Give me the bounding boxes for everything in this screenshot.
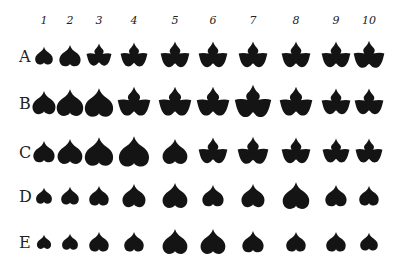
lobed-leaf-icon	[281, 137, 311, 167]
heart-leaf-icon	[32, 140, 56, 164]
lobed-leaf-icon	[321, 41, 351, 71]
lobed-leaf-icon	[238, 41, 268, 71]
lobed-leaf-icon	[279, 86, 313, 120]
heart-leaf-icon	[35, 187, 53, 205]
heart-leaf-icon	[123, 231, 145, 253]
heart-leaf-icon	[161, 182, 189, 210]
lobed-leaf-icon	[86, 43, 112, 69]
column-label: 5	[172, 14, 179, 27]
lobed-leaf-icon	[355, 138, 383, 166]
lobed-leaf-icon	[196, 86, 230, 120]
row-label: A	[19, 47, 31, 66]
heart-leaf-icon	[31, 90, 57, 116]
heart-leaf-icon	[201, 184, 225, 208]
column-label: 6	[210, 14, 217, 27]
heart-leaf-icon	[241, 230, 265, 254]
column-label: 7	[250, 14, 257, 27]
lobed-leaf-icon	[237, 136, 269, 168]
row-label: C	[19, 143, 31, 162]
lobed-leaf-icon	[354, 88, 384, 118]
heart-leaf-icon	[281, 181, 311, 211]
lobed-leaf-icon	[322, 138, 350, 166]
heart-leaf-icon	[36, 234, 52, 250]
heart-leaf-icon	[88, 231, 110, 253]
heart-leaf-icon	[161, 138, 189, 166]
heart-leaf-icon	[325, 231, 347, 253]
lobed-leaf-icon	[198, 137, 228, 167]
column-label: 1	[41, 14, 48, 27]
heart-leaf-icon	[61, 233, 79, 251]
heart-leaf-icon	[359, 232, 379, 252]
lobed-leaf-icon	[158, 86, 192, 120]
column-label: 3	[96, 14, 103, 27]
heart-leaf-icon	[199, 228, 227, 256]
heart-leaf-icon	[240, 183, 266, 209]
column-label: 9	[333, 14, 340, 27]
lobed-leaf-icon	[353, 40, 385, 72]
heart-leaf-icon	[324, 184, 348, 208]
row-label: E	[19, 233, 31, 252]
row-label: D	[19, 187, 32, 206]
lobed-leaf-icon	[120, 42, 148, 70]
heart-leaf-icon	[358, 185, 380, 207]
heart-leaf-icon	[83, 136, 115, 168]
heart-leaf-icon	[117, 135, 151, 169]
lobed-leaf-icon	[198, 41, 228, 71]
heart-leaf-icon	[58, 44, 82, 68]
row-label: B	[19, 94, 31, 113]
heart-leaf-icon	[56, 138, 84, 166]
lobed-leaf-icon	[281, 41, 311, 71]
heart-leaf-icon	[34, 46, 54, 66]
lobed-leaf-icon	[117, 86, 151, 120]
column-label: 8	[293, 14, 300, 27]
lobed-leaf-icon	[234, 84, 272, 122]
heart-leaf-icon	[161, 228, 189, 256]
heart-leaf-icon	[83, 87, 115, 119]
column-label: 2	[67, 14, 74, 27]
heart-leaf-icon	[55, 88, 85, 118]
column-label: 10	[362, 14, 376, 27]
heart-leaf-icon	[285, 231, 307, 253]
heart-leaf-icon	[88, 185, 110, 207]
heart-leaf-icon	[121, 183, 147, 209]
lobed-leaf-icon	[160, 41, 190, 71]
heart-leaf-icon	[60, 186, 80, 206]
column-label: 4	[131, 14, 138, 27]
lobed-leaf-icon	[321, 88, 351, 118]
